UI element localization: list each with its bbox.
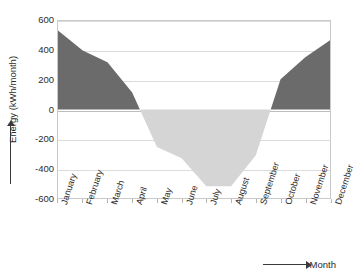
y-axis-label-group: Energy (kWh/month) (2, 16, 20, 206)
x-tick-label-december: December (334, 164, 355, 206)
y-tick-label: 0 (49, 105, 54, 115)
y-tick-label: -200 (35, 135, 54, 145)
x-axis-title: Month (310, 259, 336, 270)
y-tick-label: -400 (35, 164, 54, 174)
negative-area-path (140, 110, 271, 187)
y-tick-label: 600 (38, 15, 54, 25)
y-tick-label: 400 (38, 45, 54, 55)
right-arrow-icon (263, 264, 307, 265)
positive-area-path (58, 31, 330, 110)
up-arrow-icon (10, 124, 11, 184)
x-axis-label-group: Month (263, 259, 336, 270)
x-axis-tick-labels: JanuaryFebruaryMarchAprilMayJuneJulyAugu… (57, 203, 331, 259)
y-axis-title: Energy (kWh/month) (7, 22, 18, 178)
y-axis-tick-labels: 6004002000-200-400-600 (24, 0, 54, 278)
y-tick-label: 200 (38, 75, 54, 85)
y-tick-label: -600 (35, 194, 54, 204)
